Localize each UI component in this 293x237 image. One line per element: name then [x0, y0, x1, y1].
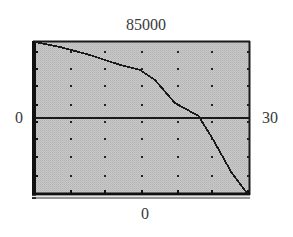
grid-dot: [177, 51, 179, 53]
grid-dot: [70, 68, 72, 70]
grid-dot: [211, 156, 213, 158]
grid-dot: [141, 156, 143, 158]
x-tick-mark: [104, 190, 106, 193]
x-tick-mark: [177, 190, 179, 193]
grid-dot: [247, 156, 249, 158]
grid-dot: [70, 175, 72, 177]
x-tick-mark: [141, 190, 143, 193]
grid-dot: [247, 175, 249, 177]
grid-dot: [247, 138, 249, 140]
ymin-label: 0: [135, 206, 155, 222]
y-tick-mark: [36, 51, 38, 53]
y-tick-mark: [36, 68, 38, 70]
y-tick-mark: [36, 156, 38, 158]
grid-dot: [70, 51, 72, 53]
grid-dot: [247, 121, 249, 123]
grid-dot: [211, 68, 213, 70]
grid-dot: [177, 85, 179, 87]
grid-dot: [141, 85, 143, 87]
grid-dot: [141, 51, 143, 53]
grid-dot: [141, 104, 143, 106]
xmax-label: 30: [258, 110, 282, 126]
grid-dot: [104, 51, 106, 53]
grid-dot: [104, 138, 106, 140]
grid-dot: [177, 156, 179, 158]
y-tick-mark: [36, 175, 38, 177]
y-tick-mark: [36, 85, 38, 87]
grid-dot: [104, 104, 106, 106]
grid-dot: [104, 156, 106, 158]
grid-dot: [70, 121, 72, 123]
grid-dot: [211, 85, 213, 87]
x-tick-mark: [211, 190, 213, 193]
grid-dot: [247, 51, 249, 53]
grid-dot: [177, 138, 179, 140]
y-tick-mark: [36, 104, 38, 106]
grid-dot: [70, 156, 72, 158]
grid-dot: [141, 175, 143, 177]
grid-dot: [141, 138, 143, 140]
grid-dot: [247, 68, 249, 70]
x-tick-mark: [70, 190, 72, 193]
y-tick-mark: [36, 121, 38, 123]
grid-dot: [70, 138, 72, 140]
grid-dot: [70, 85, 72, 87]
calculator-graph-screen: [0, 0, 293, 237]
grid-dot: [177, 175, 179, 177]
grid-dot: [211, 104, 213, 106]
left-border: [32, 41, 36, 199]
grid-dot: [104, 175, 106, 177]
grid-dot: [211, 51, 213, 53]
grid-dot: [247, 85, 249, 87]
grid-dot: [104, 85, 106, 87]
grid-dot: [211, 121, 213, 123]
grid-dot: [70, 104, 72, 106]
ymax-label: 85000: [120, 17, 172, 33]
grid-dot: [104, 68, 106, 70]
grid-dot: [104, 121, 106, 123]
grid-dot: [141, 121, 143, 123]
grid-dot: [141, 68, 143, 70]
y-tick-mark: [36, 138, 38, 140]
grid-dot: [211, 175, 213, 177]
xmin-label: 0: [13, 110, 25, 126]
grid-dot: [177, 68, 179, 70]
grid-dot: [177, 121, 179, 123]
grid-dot: [247, 104, 249, 106]
